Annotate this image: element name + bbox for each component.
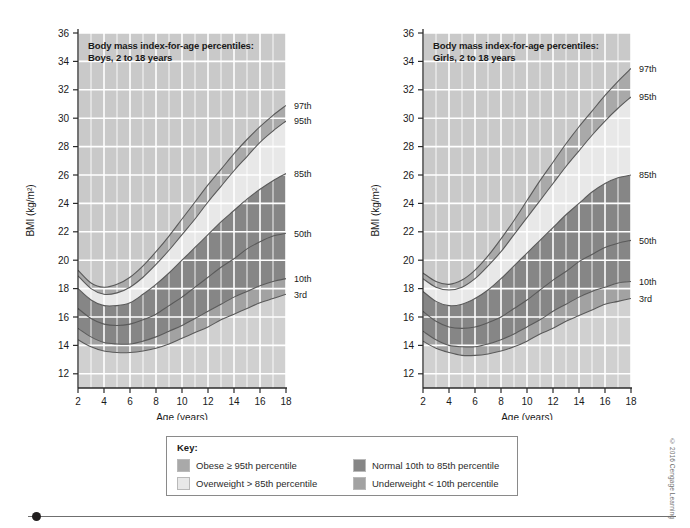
footer-bullet-dot [32,512,41,521]
curve-end-label-10th: 10th [639,277,657,287]
legend-label-underweight: Underweight < 10th percentile [372,478,498,489]
curve-end-label-85th: 85th [639,170,657,180]
curve-end-label-10th: 10th [294,274,312,284]
curve-end-label-50th: 50th [639,236,657,246]
y-axis-tick-label: 22 [58,226,70,237]
copyright-notice: © 2016 Cengage Learning [664,438,676,524]
curve-end-label-85th: 85th [294,169,312,179]
y-axis-tick-label: 28 [403,141,415,152]
curve-end-label-97th: 97th [639,64,657,74]
legend-label-obese: Obese ≥ 95th percentile [196,460,297,471]
x-axis-tick-label: 16 [254,396,266,407]
y-axis-tick-label: 12 [403,368,415,379]
curve-end-label-50th: 50th [294,229,312,239]
x-axis-title: Age (years) [156,412,208,420]
x-axis-tick-label: 12 [202,396,214,407]
bmi-chart-boys: 1214161820222426283032343624681012141618… [0,0,345,420]
curve-end-label-3rd: 3rd [294,290,307,300]
x-axis-tick-label: 4 [101,396,107,407]
x-axis-tick-label: 4 [446,396,452,407]
y-axis-tick-label: 34 [58,56,70,67]
y-axis-tick-label: 20 [58,255,70,266]
legend-item-overweight: Overweight > 85th percentile [177,477,317,490]
x-axis-tick-label: 6 [127,396,133,407]
legend-label-overweight: Overweight > 85th percentile [196,478,317,489]
x-axis-tick-label: 6 [472,396,478,407]
y-axis-tick-label: 18 [403,283,415,294]
legend-item-obese: Obese ≥ 95th percentile [177,459,297,472]
chart-title-boys: Body mass index-for-age percentiles: Boy… [88,40,254,63]
y-axis-tick-label: 22 [403,226,415,237]
x-axis-tick-label: 16 [599,396,611,407]
footer-divider [28,516,676,517]
y-axis-tick-label: 30 [403,113,415,124]
y-axis-title: BMI (kg/m²) [25,184,36,236]
x-axis-tick-label: 18 [625,396,637,407]
x-axis-tick-label: 8 [153,396,159,407]
legend-swatch-normal [353,459,366,472]
chart-panel-boys: 1214161820222426283032343624681012141618… [0,0,345,420]
y-axis-tick-label: 24 [58,198,70,209]
x-axis-tick-label: 2 [420,396,426,407]
legend-label-normal: Normal 10th to 85th percentile [372,460,499,471]
bmi-chart-girls: 1214161820222426283032343624681012141618… [345,0,690,420]
legend-key-box: Key: Obese ≥ 95th percentile Overweight … [166,436,518,496]
curve-end-label-3rd: 3rd [639,294,652,304]
x-axis-tick-label: 10 [521,396,533,407]
y-axis-tick-label: 26 [58,170,70,181]
y-axis-tick-label: 36 [58,28,70,39]
legend-swatch-underweight [353,477,366,490]
x-axis-title: Age (years) [501,412,553,420]
y-axis-tick-label: 14 [58,340,70,351]
chart-panel-girls: 1214161820222426283032343624681012141618… [345,0,690,420]
x-axis-tick-label: 18 [280,396,292,407]
curve-end-label-95th: 95th [639,92,657,102]
legend-title: Key: [177,442,198,453]
y-axis-tick-label: 36 [403,28,415,39]
x-axis-tick-label: 8 [498,396,504,407]
x-axis-tick-label: 12 [547,396,559,407]
legend-swatch-obese [177,459,190,472]
y-axis-tick-label: 26 [403,170,415,181]
y-axis-tick-label: 32 [58,84,70,95]
y-axis-tick-label: 18 [58,283,70,294]
x-axis-tick-label: 2 [75,396,81,407]
y-axis-tick-label: 34 [403,56,415,67]
legend-item-normal: Normal 10th to 85th percentile [353,459,499,472]
y-axis-tick-label: 30 [58,113,70,124]
legend-item-underweight: Underweight < 10th percentile [353,477,498,490]
legend-swatch-overweight [177,477,190,490]
y-axis-tick-label: 14 [403,340,415,351]
y-axis-tick-label: 24 [403,198,415,209]
x-axis-tick-label: 14 [228,396,240,407]
y-axis-tick-label: 12 [58,368,70,379]
y-axis-tick-label: 32 [403,84,415,95]
y-axis-title: BMI (kg/m²) [370,184,381,236]
y-axis-tick-label: 20 [403,255,415,266]
curve-end-label-95th: 95th [294,116,312,126]
curve-end-label-97th: 97th [294,101,312,111]
y-axis-tick-label: 28 [58,141,70,152]
x-axis-tick-label: 14 [573,396,585,407]
chart-title-girls: Body mass index-for-age percentiles: Gir… [433,40,599,63]
y-axis-tick-label: 16 [403,312,415,323]
y-axis-tick-label: 16 [58,312,70,323]
x-axis-tick-label: 10 [176,396,188,407]
